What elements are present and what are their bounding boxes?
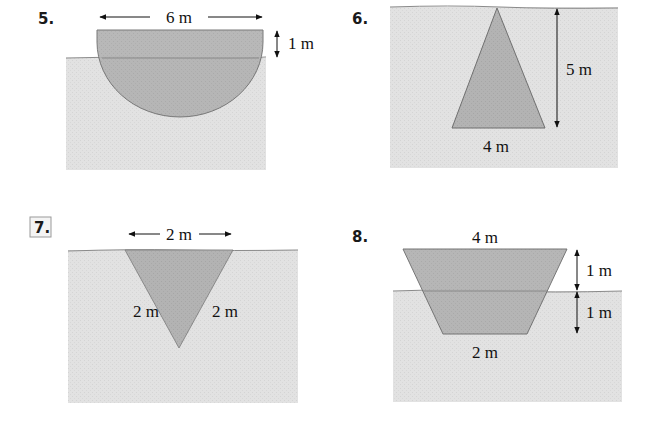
width-label: 6 m xyxy=(166,8,192,27)
base-label: 4 m xyxy=(483,137,509,156)
figure-8: 8. 4 m 1 m 1 m 2 m xyxy=(352,228,622,402)
figure-6: 6. 5 m 4 m xyxy=(352,6,618,168)
left-side-label: 2 m xyxy=(133,302,159,321)
above-water-label: 1 m xyxy=(288,34,314,53)
above-water-label: 1 m xyxy=(586,261,612,280)
diagram-canvas: 5. 6 m 1 m 6. 5 m 4 m 7. 2 m 2 m 2 m 8. xyxy=(0,0,648,445)
right-side-label: 2 m xyxy=(212,302,238,321)
top-label: 4 m xyxy=(472,228,498,247)
figure-number: 7. xyxy=(34,219,50,237)
bottom-label: 2 m xyxy=(472,343,498,362)
figure-5: 5. 6 m 1 m xyxy=(38,8,314,170)
figure-7: 7. 2 m 2 m 2 m xyxy=(30,217,298,403)
figure-number: 8. xyxy=(352,228,368,246)
top-label: 2 m xyxy=(166,225,192,244)
figure-number: 6. xyxy=(352,10,368,28)
height-label: 5 m xyxy=(566,60,592,79)
figure-number: 5. xyxy=(38,10,54,28)
below-water-label: 1 m xyxy=(586,303,612,322)
